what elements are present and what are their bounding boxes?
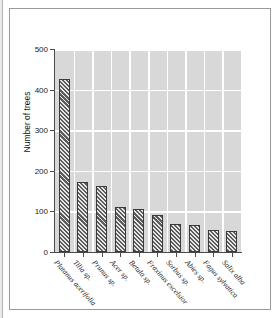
x-tick-mark bbox=[176, 253, 177, 257]
bar bbox=[170, 224, 181, 252]
x-tick-mark bbox=[213, 253, 214, 257]
bar bbox=[59, 79, 70, 252]
y-tick-label: 0 bbox=[44, 248, 48, 257]
y-tick-label: 500 bbox=[35, 45, 48, 54]
gridline-vertical-9 bbox=[222, 49, 224, 252]
y-tick-mark bbox=[50, 252, 54, 253]
y-axis-title: Number of trees bbox=[22, 67, 32, 177]
y-tick-mark bbox=[50, 90, 54, 91]
gridline-vertical-1 bbox=[74, 49, 76, 252]
gridline-vertical-8 bbox=[204, 49, 206, 252]
x-tick-mark bbox=[157, 253, 158, 257]
y-tick-mark bbox=[50, 49, 54, 50]
bar bbox=[208, 230, 219, 252]
y-tick-mark bbox=[50, 130, 54, 131]
x-tick-mark bbox=[139, 253, 140, 257]
bar bbox=[226, 231, 237, 252]
plot-area bbox=[55, 49, 241, 252]
gridline-vertical-4 bbox=[129, 49, 131, 252]
y-tick-mark bbox=[50, 211, 54, 212]
y-tick-label: 300 bbox=[35, 126, 48, 135]
y-tick-mark bbox=[50, 171, 54, 172]
x-tick-mark bbox=[120, 253, 121, 257]
chart-figure: 0100200300400500 Platanus acerifoliaTili… bbox=[9, 8, 271, 310]
gridline-vertical-7 bbox=[185, 49, 187, 252]
y-tick-label: 100 bbox=[35, 207, 48, 216]
gridline-vertical-5 bbox=[148, 49, 150, 252]
x-tick-mark bbox=[64, 253, 65, 257]
gridline-vertical-2 bbox=[92, 49, 94, 252]
y-axis-line bbox=[54, 49, 55, 253]
bar bbox=[115, 207, 126, 252]
bar bbox=[133, 209, 144, 252]
y-tick-label: 400 bbox=[35, 85, 48, 94]
x-tick-mark bbox=[195, 253, 196, 257]
x-tick-mark bbox=[232, 253, 233, 257]
bar bbox=[152, 215, 163, 252]
bar bbox=[189, 225, 200, 252]
gridline-vertical-6 bbox=[167, 49, 169, 252]
image-left-edge-strip bbox=[0, 0, 3, 318]
gridline-vertical-3 bbox=[111, 49, 113, 252]
x-tick-mark bbox=[83, 253, 84, 257]
x-tick-mark bbox=[102, 253, 103, 257]
bar bbox=[96, 186, 107, 252]
y-tick-label: 200 bbox=[35, 166, 48, 175]
bar bbox=[77, 182, 88, 252]
